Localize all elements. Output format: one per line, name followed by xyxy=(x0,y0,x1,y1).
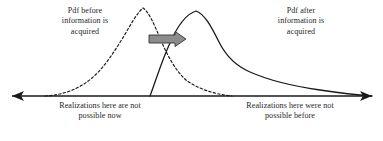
left-region-label: Realizations here are not possible now xyxy=(14,101,186,122)
pdf-after-label: Pdf after information is acquired xyxy=(248,6,354,37)
shift-arrow-icon xyxy=(149,32,186,47)
right-block-arrow-shape xyxy=(149,32,186,47)
right-region-label: Realizations here were not possible befo… xyxy=(202,101,378,122)
pdf-before-label: Pdf before information is acquired xyxy=(34,6,136,37)
pdf-information-diagram: Pdf before information is acquired Pdf a… xyxy=(0,0,383,141)
